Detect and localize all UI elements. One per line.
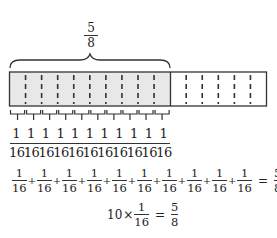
term-fraction: 116 <box>62 167 77 194</box>
numerator: 1 <box>216 167 223 179</box>
unit-denominator: 16 <box>97 146 112 160</box>
plus-sign: + <box>53 175 61 186</box>
term-fraction: 116 <box>112 167 127 194</box>
multiplier: 10 <box>107 208 122 222</box>
unit-braces <box>11 110 170 120</box>
small-brace-icon <box>75 110 89 120</box>
unit-denominator: 16 <box>38 146 53 160</box>
unit-denominator: 16 <box>112 146 127 160</box>
unit-numerators: 11111111111 <box>9 127 171 141</box>
denominator: 8 <box>171 216 178 228</box>
numerator: 1 <box>66 167 73 179</box>
unit-denominators: 1616161616161616161616 <box>9 146 171 160</box>
small-brace-icon <box>59 110 73 120</box>
plus-sign: + <box>178 175 186 186</box>
term-fraction: 116 <box>12 167 27 194</box>
numerator: 1 <box>141 167 148 179</box>
plus-sign: + <box>153 175 161 186</box>
plus-sign: + <box>78 175 86 186</box>
equals-sign: = <box>258 174 268 188</box>
denominator: 16 <box>162 182 177 194</box>
numerator: 1 <box>41 167 48 179</box>
plus-sign: + <box>228 175 236 186</box>
denominator: 16 <box>112 182 127 194</box>
plus-sign: + <box>103 175 111 186</box>
unit-numerator: 1 <box>112 127 127 141</box>
denominator: 16 <box>187 182 202 194</box>
unit-numerator: 1 <box>68 127 83 141</box>
numerator: 1 <box>241 167 248 179</box>
denominator: 8 <box>274 182 277 194</box>
denominator: 16 <box>12 182 27 194</box>
numerator: 5 <box>274 167 277 179</box>
unit-denominator: 16 <box>83 146 98 160</box>
unit-denominator: 16 <box>53 146 68 160</box>
term-fraction: 116 <box>237 167 252 194</box>
small-brace-icon <box>91 110 105 120</box>
unit-numerator: 1 <box>24 127 39 141</box>
small-brace-icon <box>123 110 137 120</box>
numerator: 1 <box>138 201 145 213</box>
unit-denominator: 16 <box>141 146 156 160</box>
unit-fraction-line <box>10 143 170 144</box>
denominator: 16 <box>134 216 149 228</box>
denominator: 16 <box>212 182 227 194</box>
term-fraction: 116 <box>212 167 227 194</box>
unit-numerator: 1 <box>156 127 171 141</box>
unit-numerator: 1 <box>127 127 142 141</box>
small-brace-icon <box>155 110 169 120</box>
unit-denominator: 16 <box>9 146 24 160</box>
small-brace-icon <box>11 110 25 120</box>
sum-equation: 116+116+116+116+116+116+116+116+116+116=… <box>12 167 277 194</box>
small-brace-icon <box>27 110 41 120</box>
unit-numerator: 1 <box>83 127 98 141</box>
term-fraction: 116 <box>87 167 102 194</box>
times-sign: × <box>123 208 133 222</box>
large-brace-icon <box>10 54 170 68</box>
unit-numerator: 1 <box>53 127 68 141</box>
unit-numerator: 1 <box>38 127 53 141</box>
numerator: 5 <box>171 201 178 213</box>
denominator: 16 <box>87 182 102 194</box>
term-fraction: 116 <box>37 167 52 194</box>
unit-numerator: 1 <box>9 127 24 141</box>
numerator: 1 <box>116 167 123 179</box>
term-fraction: 116 <box>187 167 202 194</box>
denominator: 16 <box>62 182 77 194</box>
small-brace-icon <box>139 110 153 120</box>
denominator: 16 <box>237 182 252 194</box>
plus-sign: + <box>128 175 136 186</box>
unit-fraction: 1 16 <box>134 201 149 228</box>
denominator: 16 <box>137 182 152 194</box>
unit-denominator: 16 <box>24 146 39 160</box>
result-fraction: 5 8 <box>171 201 178 228</box>
numerator: 1 <box>191 167 198 179</box>
unit-denominator: 16 <box>127 146 142 160</box>
small-brace-icon <box>43 110 57 120</box>
equals-sign: = <box>155 208 165 222</box>
numerator: 1 <box>16 167 23 179</box>
plus-sign: + <box>28 175 36 186</box>
term-fraction: 116 <box>162 167 177 194</box>
unit-denominator: 16 <box>68 146 83 160</box>
numerator: 1 <box>166 167 173 179</box>
numerator: 1 <box>91 167 98 179</box>
term-fraction: 116 <box>137 167 152 194</box>
small-brace-icon <box>107 110 121 120</box>
product-equation: 10 × 1 16 = 5 8 <box>107 201 178 228</box>
unit-numerator: 1 <box>141 127 156 141</box>
plus-sign: + <box>203 175 211 186</box>
unit-numerator: 1 <box>97 127 112 141</box>
denominator: 16 <box>37 182 52 194</box>
unit-denominator: 16 <box>156 146 171 160</box>
result-fraction: 58 <box>274 167 277 194</box>
